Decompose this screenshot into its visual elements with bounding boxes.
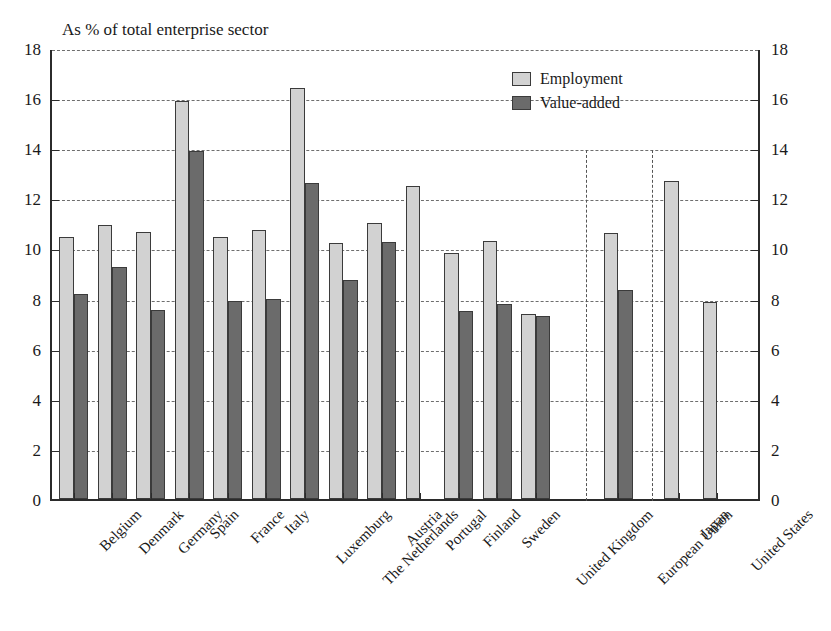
x-axis-tick	[266, 493, 267, 499]
bar-value-added	[74, 294, 89, 499]
y-axis-label-left: 8	[33, 292, 42, 309]
y-axis-label-left: 12	[24, 191, 41, 208]
x-axis-tick	[420, 493, 421, 499]
x-axis-tick	[536, 493, 537, 499]
legend-swatch-icon	[512, 72, 531, 86]
bar-employment	[329, 243, 344, 499]
y-axis-label-left: 4	[33, 392, 42, 409]
legend-item: Value-added	[512, 94, 623, 112]
x-axis-tick	[74, 493, 75, 499]
bar-employment	[664, 181, 679, 499]
y-axis-label-right: 16	[771, 91, 788, 108]
bar-employment	[604, 233, 619, 499]
x-axis-tick	[228, 493, 229, 499]
y-axis-label-left: 18	[24, 41, 41, 58]
x-axis-category-label: Italy	[282, 507, 312, 537]
y-axis-tick-left	[52, 100, 59, 101]
bar-employment	[521, 314, 536, 499]
bar-employment	[59, 237, 74, 499]
y-axis-tick-right	[751, 401, 758, 402]
y-axis-label-left: 10	[24, 241, 41, 258]
bar-employment	[367, 223, 382, 499]
y-axis-tick-left	[52, 401, 59, 402]
x-axis-category-label: France	[247, 507, 286, 546]
x-axis-tick	[497, 493, 498, 499]
x-axis-tick	[305, 493, 306, 499]
y-axis-tick-right	[751, 200, 758, 201]
y-axis-label-right: 10	[771, 241, 788, 258]
x-axis-category-label: United States	[749, 507, 816, 574]
bar-value-added	[228, 301, 243, 499]
y-axis-tick-left	[52, 451, 59, 452]
bar-value-added	[343, 280, 358, 499]
y-axis-tick-right	[751, 150, 758, 151]
x-axis-tick	[382, 493, 383, 499]
y-axis-tick-left	[52, 150, 59, 151]
chart-legend: EmploymentValue-added	[512, 70, 623, 118]
bar-employment	[136, 232, 151, 499]
y-axis-tick-right	[751, 451, 758, 452]
y-axis-tick-left	[52, 301, 59, 302]
y-axis-tick-left	[52, 351, 59, 352]
legend-label: Value-added	[540, 94, 620, 112]
y-axis-tick-right	[751, 250, 758, 251]
y-axis-label-left: 14	[24, 141, 41, 158]
x-axis-category-label: Finland	[480, 507, 523, 550]
bar-employment	[703, 302, 718, 499]
bar-employment	[290, 88, 305, 499]
bar-employment	[483, 241, 498, 499]
y-axis-label-right: 0	[771, 492, 780, 509]
x-axis-tick	[618, 493, 619, 499]
bar-chart: As % of total enterprise sector Employme…	[0, 0, 831, 631]
chart-title: As % of total enterprise sector	[62, 20, 268, 40]
x-axis-category-label: Sweden	[519, 507, 563, 551]
y-axis-label-right: 18	[771, 41, 788, 58]
group-separator-dashed-line	[586, 150, 587, 501]
x-axis-tick	[343, 493, 344, 499]
x-axis-tick	[459, 493, 460, 499]
bar-value-added	[459, 311, 474, 499]
x-axis-tick	[151, 493, 152, 499]
bar-value-added	[536, 316, 551, 499]
bar-employment	[444, 253, 459, 499]
bar-value-added	[112, 267, 127, 499]
y-axis-label-left: 6	[33, 342, 42, 359]
y-axis-label-right: 6	[771, 342, 780, 359]
y-axis-label-left: 0	[33, 492, 42, 509]
bar-employment	[213, 237, 228, 499]
legend-swatch-icon	[512, 96, 531, 110]
plot-area	[50, 50, 760, 501]
bar-employment	[98, 225, 113, 499]
bar-employment	[175, 101, 190, 499]
x-axis-category-label: United Kingdom	[573, 507, 655, 589]
y-axis-label-right: 4	[771, 392, 780, 409]
bar-employment	[252, 230, 267, 499]
y-axis-tick-left	[52, 250, 59, 251]
gridline	[52, 100, 758, 101]
legend-item: Employment	[512, 70, 623, 88]
bar-value-added	[189, 151, 204, 499]
y-axis-label-left: 2	[33, 442, 42, 459]
y-axis-tick-right	[751, 301, 758, 302]
bar-value-added	[305, 183, 320, 499]
x-axis-tick	[189, 493, 190, 499]
x-axis-tick	[717, 493, 718, 499]
bar-value-added	[618, 290, 633, 499]
y-axis-tick-left	[52, 200, 59, 201]
bar-value-added	[382, 242, 397, 499]
y-axis-label-right: 12	[771, 191, 788, 208]
group-separator-dashed-line	[652, 150, 653, 501]
y-axis-label-right: 2	[771, 442, 780, 459]
x-axis-tick	[112, 493, 113, 499]
bar-value-added	[497, 304, 512, 499]
y-axis-label-right: 14	[771, 141, 788, 158]
y-axis-label-left: 16	[24, 91, 41, 108]
bar-value-added	[151, 310, 166, 499]
y-axis-label-right: 8	[771, 292, 780, 309]
x-axis-category-label: Luxemburg	[333, 507, 393, 567]
y-axis-tick-right	[751, 100, 758, 101]
x-axis-tick	[679, 493, 680, 499]
gridline	[52, 50, 758, 51]
y-axis-tick-right	[751, 351, 758, 352]
bar-value-added	[266, 299, 281, 499]
